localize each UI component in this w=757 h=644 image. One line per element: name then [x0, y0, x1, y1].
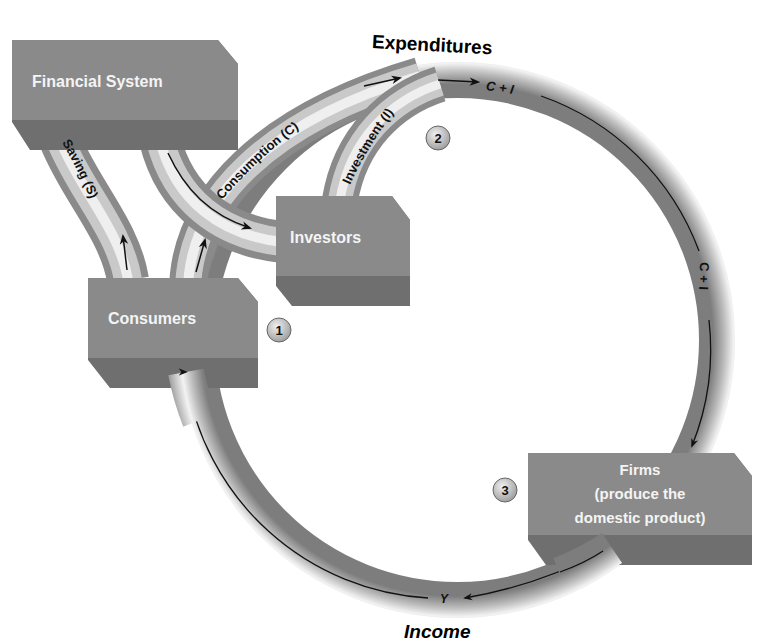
firms-label-line-2: (produce the	[595, 485, 686, 502]
income-y-label: Y	[440, 592, 449, 606]
expenditures-heading: Expenditures	[372, 31, 493, 58]
circular-flow-diagram: Financial System Investors Consumers Fir…	[0, 0, 757, 644]
investors-node: Investors	[276, 196, 410, 306]
firms-node: Firms (produce the domestic product)	[528, 453, 752, 565]
financial-system-label: Financial System	[32, 73, 163, 90]
step-marker-3: 3	[493, 478, 517, 502]
step-marker-1: 1	[267, 318, 291, 342]
income-heading: Income	[404, 621, 471, 642]
svg-text:3: 3	[501, 483, 508, 498]
financial-system-node: Financial System	[12, 40, 238, 150]
consumers-ring-entry	[186, 372, 200, 420]
consumers-label: Consumers	[108, 310, 196, 327]
firms-label-line-1: Firms	[620, 461, 661, 478]
ci-right-label: C + I	[696, 262, 712, 290]
svg-text:1: 1	[275, 323, 282, 338]
svg-text:2: 2	[434, 131, 441, 146]
consumers-node: Consumers	[88, 278, 258, 388]
investors-label: Investors	[290, 229, 361, 246]
firms-label-line-3: domestic product)	[575, 509, 706, 526]
step-marker-2: 2	[426, 126, 450, 150]
